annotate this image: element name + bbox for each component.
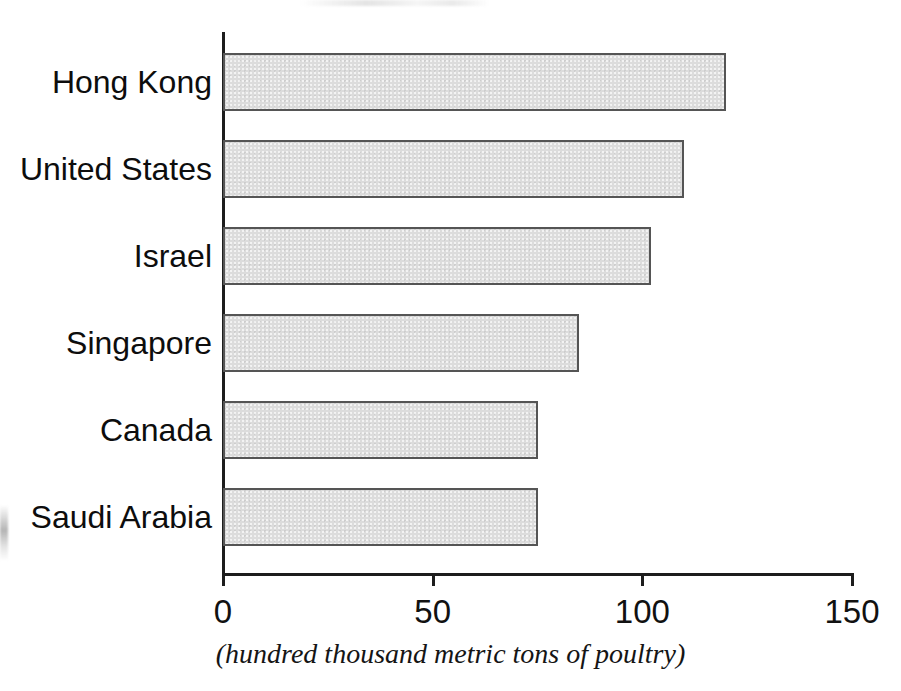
category-label-hong-kong: Hong Kong [52, 64, 212, 100]
x-tick-label-0: 0 [214, 592, 232, 632]
category-label-israel: Israel [134, 238, 212, 274]
scan-artifact-top [300, 0, 490, 6]
bar-israel [223, 227, 651, 285]
x-tick-label-50: 50 [414, 592, 451, 632]
poultry-consumption-bar-chart: 050100150 Hong KongUnited StatesIsraelSi… [0, 0, 901, 691]
bar-canada [223, 401, 538, 459]
category-label-united-states: United States [20, 151, 212, 187]
category-label-canada: Canada [100, 412, 212, 448]
x-tick-150 [851, 573, 854, 586]
bar-united-states [223, 140, 684, 198]
bar-singapore [223, 314, 579, 372]
x-tick-label-150: 150 [824, 592, 879, 632]
x-tick-label-100: 100 [615, 592, 670, 632]
category-label-singapore: Singapore [66, 325, 212, 361]
x-axis-line [222, 573, 854, 576]
bar-saudi-arabia [223, 488, 538, 546]
x-tick-50 [432, 573, 435, 586]
x-tick-0 [222, 573, 225, 586]
plot-area: 050100150 [222, 32, 851, 573]
bar-hong-kong [223, 53, 726, 111]
category-label-saudi-arabia: Saudi Arabia [31, 499, 212, 535]
x-axis-caption: (hundred thousand metric tons of poultry… [0, 637, 901, 671]
scan-artifact-left [0, 505, 8, 561]
x-tick-100 [641, 573, 644, 586]
